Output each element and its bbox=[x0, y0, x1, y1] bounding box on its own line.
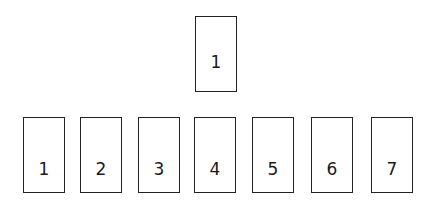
row-card-label: 4 bbox=[195, 161, 235, 178]
row-card-label: 1 bbox=[24, 161, 64, 178]
top-card: 1 bbox=[195, 16, 237, 92]
row-card-7: 7 bbox=[371, 117, 413, 193]
row-card-1: 1 bbox=[23, 117, 65, 193]
row-card-2: 2 bbox=[80, 117, 122, 193]
top-card-label: 1 bbox=[196, 54, 236, 71]
row-card-3: 3 bbox=[138, 117, 180, 193]
row-card-4: 4 bbox=[194, 117, 236, 193]
row-card-label: 3 bbox=[139, 161, 179, 178]
row-card-6: 6 bbox=[311, 117, 353, 193]
row-card-label: 5 bbox=[253, 161, 293, 178]
row-card-label: 7 bbox=[372, 161, 412, 178]
row-card-label: 2 bbox=[81, 161, 121, 178]
row-card-label: 6 bbox=[312, 161, 352, 178]
row-card-5: 5 bbox=[252, 117, 294, 193]
